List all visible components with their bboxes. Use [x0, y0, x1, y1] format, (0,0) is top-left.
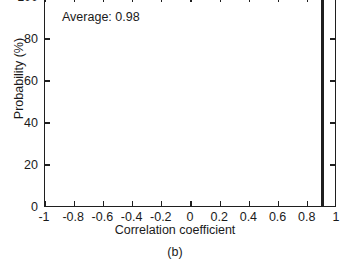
bar: [321, 0, 324, 206]
x-tick-mark: [103, 0, 104, 2]
x-tick-mark: [45, 201, 46, 206]
x-tick-mark: [220, 0, 221, 2]
x-tick-mark: [161, 201, 162, 206]
x-tick-mark: [278, 201, 279, 206]
figure-panel-b: 020406080100 -1-0.8-0.6-0.4-0.200.20.40.…: [0, 0, 350, 265]
x-tick-mark: [249, 201, 250, 206]
y-tick-mark: [330, 164, 335, 165]
x-tick-mark: [307, 0, 308, 2]
y-tick-mark: [45, 80, 50, 81]
x-tick-mark: [278, 0, 279, 2]
y-tick-mark: [330, 206, 335, 207]
y-tick-mark: [45, 206, 50, 207]
x-tick-mark: [161, 0, 162, 2]
x-tick-mark: [74, 0, 75, 2]
x-tick-mark: [307, 201, 308, 206]
x-tick-label: 1: [314, 211, 350, 224]
x-tick-mark: [190, 0, 191, 2]
y-tick-mark: [330, 80, 335, 81]
y-tick-mark: [45, 122, 50, 123]
y-axis-title: Probability (%): [13, 4, 26, 154]
bar-series: [45, 0, 335, 206]
y-tick-mark: [330, 122, 335, 123]
figure-caption: (b): [0, 246, 350, 259]
x-tick-mark: [74, 201, 75, 206]
x-tick-mark: [249, 0, 250, 2]
x-tick-mark: [190, 201, 191, 206]
x-tick-mark: [103, 201, 104, 206]
y-tick-mark: [45, 164, 50, 165]
x-tick-mark: [220, 201, 221, 206]
x-tick-mark: [132, 201, 133, 206]
x-tick-mark: [45, 0, 46, 2]
x-axis-title: Correlation coefficient: [0, 224, 350, 237]
plot-area: [44, 0, 336, 207]
average-annotation: Average: 0.98: [62, 11, 140, 24]
y-tick-mark: [45, 38, 50, 39]
x-tick-mark: [132, 0, 133, 2]
y-tick-mark: [330, 38, 335, 39]
y-tick-label: 20: [0, 159, 38, 172]
